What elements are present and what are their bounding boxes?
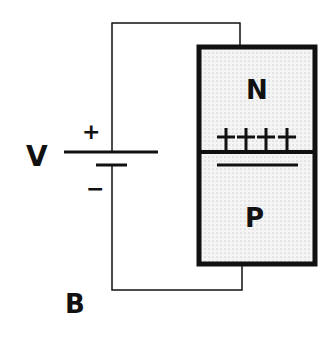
voltage-label: V xyxy=(26,143,48,171)
circuit-diagram xyxy=(0,0,333,350)
positive-terminal-label: + xyxy=(82,121,100,143)
negative-terminal-label: − xyxy=(86,178,104,200)
n-region-label: N xyxy=(246,77,268,103)
p-region-label: P xyxy=(245,205,264,231)
node-b-label: B xyxy=(65,291,85,317)
